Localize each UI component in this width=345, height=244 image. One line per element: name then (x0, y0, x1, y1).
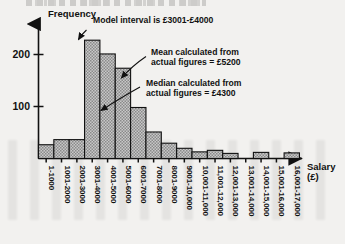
histogram-bar (223, 153, 238, 158)
x-tick-label: 15,001-16,000 (277, 166, 286, 218)
x-tick-label: 10,001-11,000 (201, 166, 210, 217)
mode-annotation-text: Model interval is £3001-£4000 (93, 15, 214, 25)
x-tick-label: 16,001-17,000 (293, 166, 302, 218)
histogram-bar (69, 140, 84, 159)
y-tick-label-200: 200 (12, 48, 30, 60)
histogram-bar (54, 140, 69, 159)
mean-annotation-line2: actual figures = £5200 (151, 57, 241, 67)
median-annotation-line2: actual figures = £4300 (146, 88, 236, 98)
median-annotation-line1: Median calculated from (146, 78, 242, 88)
histogram-bar (253, 152, 268, 158)
histogram-bar (284, 153, 299, 159)
histogram-bar (39, 145, 54, 159)
y-tick-label-100: 100 (12, 100, 30, 112)
x-axis-title-line2: (£) (307, 171, 319, 182)
x-tick-label: 11,001-12,000 (216, 166, 225, 217)
x-tick-label: 13,001-14,000 (247, 166, 256, 218)
y-axis-title: Frequency (48, 8, 97, 19)
x-tick-label: 14,001-15,000 (262, 166, 271, 218)
x-tick-label: 4001-5000 (109, 166, 118, 204)
histogram-bar (177, 148, 192, 158)
x-tick-label: 6001-7000 (139, 166, 148, 204)
mean-leader-line (122, 57, 147, 79)
histogram-bar (192, 152, 207, 159)
histogram-bar (131, 108, 146, 159)
x-tick-label: 1-1000 (47, 166, 56, 191)
x-tick-label: 8001-9000 (170, 166, 179, 204)
x-tick-label: 12,001-13,000 (231, 166, 240, 218)
histogram-bar (146, 132, 161, 159)
histogram-bar (85, 40, 100, 158)
mode-leader-line (79, 30, 87, 40)
histogram-figure: 200 100 Frequency Salary (£) 1-10001001-… (0, 0, 345, 244)
histogram-bar (115, 68, 130, 158)
x-tick-label: 1001-2000 (63, 166, 72, 204)
histogram-bar (161, 143, 176, 158)
mean-annotation-line1: Mean calculated from (151, 47, 239, 57)
x-tick-label: 9001-10,000 (185, 166, 194, 211)
x-tick-label: 2001-3000 (78, 166, 87, 204)
x-tick-label: 7001-8000 (155, 166, 164, 204)
x-tick-label-group: 1-10001001-20002001-30003001-40004001-50… (47, 166, 302, 218)
x-tick-label: 3001-4000 (93, 166, 102, 204)
x-tick-label: 5001-6000 (124, 166, 133, 204)
histogram-svg: 200 100 Frequency Salary (£) 1-10001001-… (0, 0, 345, 244)
histogram-bar (207, 150, 222, 158)
